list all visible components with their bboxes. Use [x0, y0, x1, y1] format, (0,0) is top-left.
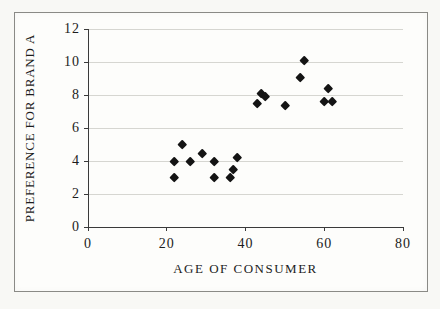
x-axis-line: [88, 227, 404, 228]
y-tick-4: [84, 161, 88, 162]
y-axis-title: PREFERENCE FOR BRAND A: [22, 34, 38, 222]
x-tick-0: [88, 227, 89, 231]
y-tick-label-4: 4: [46, 153, 80, 169]
y-axis-line: [88, 29, 89, 228]
gridline-y-12: [88, 29, 403, 30]
y-tick-10: [84, 62, 88, 63]
x-tick-label-60: 60: [302, 236, 346, 252]
gridline-y-8: [88, 95, 403, 96]
gridline-y-10: [88, 62, 403, 63]
x-axis-title: AGE OF CONSUMER: [173, 261, 318, 277]
gridline-y-4: [88, 161, 403, 162]
y-tick-label-6: 6: [46, 120, 80, 136]
y-tick-label-12: 12: [46, 21, 80, 37]
y-tick-label-2: 2: [46, 186, 80, 202]
y-tick-label-8: 8: [46, 87, 80, 103]
x-tick-80: [403, 227, 404, 231]
y-tick-label-0: 0: [46, 219, 80, 235]
gridline-y-6: [88, 128, 403, 129]
y-tick-6: [84, 128, 88, 129]
x-tick-40: [245, 227, 246, 231]
y-tick-label-10: 10: [46, 54, 80, 70]
x-tick-label-40: 40: [224, 236, 268, 252]
x-tick-20: [166, 227, 167, 231]
y-tick-2: [84, 194, 88, 195]
y-tick-8: [84, 95, 88, 96]
x-tick-label-0: 0: [66, 236, 110, 252]
gridline-y-2: [88, 194, 403, 195]
x-tick-label-80: 80: [381, 236, 425, 252]
scatter-chart-figure: 024681012020406080 PREFERENCE FOR BRAND …: [0, 0, 440, 309]
y-tick-12: [84, 29, 88, 30]
x-tick-60: [324, 227, 325, 231]
x-tick-label-20: 20: [145, 236, 189, 252]
